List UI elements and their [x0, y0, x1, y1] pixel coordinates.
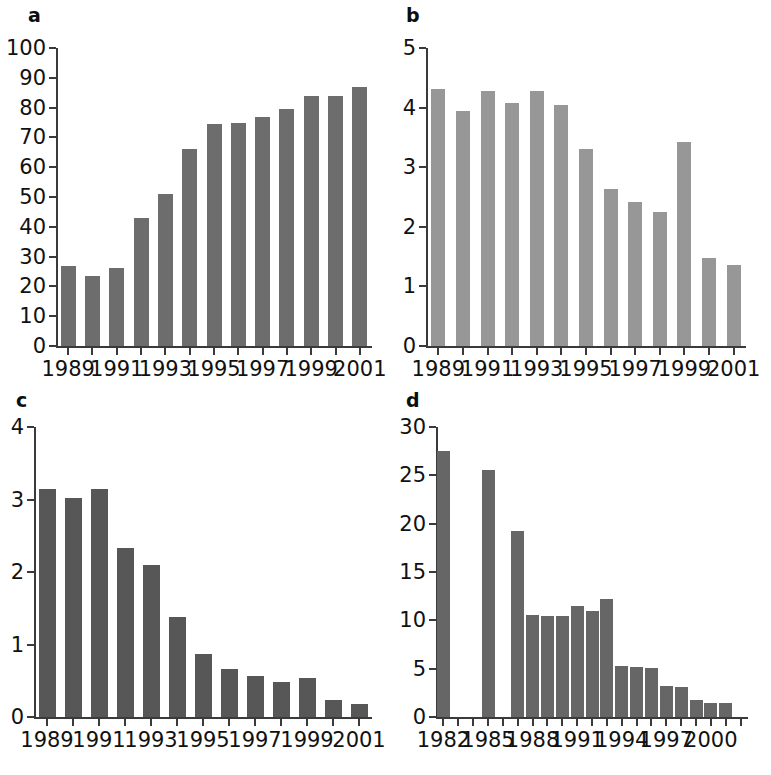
- panel-b-bar: [505, 103, 519, 346]
- panel-a-bar: [85, 276, 100, 346]
- panel-c-y-tick: [27, 499, 34, 501]
- panel-d-bar: [600, 599, 613, 717]
- panel-b-y-tick-label: 3: [403, 157, 416, 178]
- panel-c-y-tick: [27, 644, 34, 646]
- panel-a-y-tick: [49, 315, 56, 317]
- panel-b-y-tick: [419, 166, 426, 168]
- panel-d-y-tick-label: 5: [413, 658, 426, 679]
- panel-b-y-tick-label: 2: [403, 216, 416, 237]
- panel-a-bar: [109, 268, 124, 346]
- panel-c-x-tick-label: 1993: [124, 730, 177, 751]
- panel-c-bar: [169, 617, 186, 717]
- panel-c-x-tick: [358, 719, 360, 726]
- panel-b-bar: [481, 91, 495, 346]
- panel-c-y-tick: [27, 426, 34, 428]
- panel-b-bar: [653, 212, 667, 346]
- panel-d-x-tick: [472, 719, 474, 726]
- panel-d-x-tick: [517, 719, 519, 726]
- panel-d-bar: [482, 470, 495, 717]
- panel-c-letter: c: [16, 391, 27, 410]
- panel-c-y-tick: [27, 716, 34, 718]
- panel-d-x-tick: [561, 719, 563, 726]
- panel-b-x-tick: [437, 348, 439, 355]
- panel-d-x-tick: [740, 719, 742, 726]
- panel-b-bar: [456, 111, 470, 346]
- panel-a-bar: [231, 123, 246, 346]
- panel-a-y-tick: [49, 285, 56, 287]
- panel-c-bar: [91, 489, 108, 717]
- panel-d-y-tick: [429, 668, 436, 670]
- panel-a-x-tick-label: 1991: [90, 359, 143, 380]
- panel-d-x-tick: [725, 719, 727, 726]
- panel-b-y-tick-label: 0: [403, 336, 416, 357]
- panel-a-x-tick: [91, 348, 93, 355]
- panel-b-y-tick: [419, 285, 426, 287]
- panel-d-y-tick-label: 20: [399, 513, 426, 534]
- panel-a-x-tick: [286, 348, 288, 355]
- panel-a-x-tick-label: 1997: [236, 359, 289, 380]
- panel-c-bar: [65, 498, 82, 717]
- panel-b: b 0123451989199119931995199719992001: [390, 0, 771, 390]
- panel-c-x-tick-label: 1989: [20, 730, 73, 751]
- panel-d-bar: [675, 687, 688, 717]
- panel-b-x-tick-label: 1993: [510, 359, 563, 380]
- panel-a-y-tick: [49, 226, 56, 228]
- panel-d-bar: [615, 666, 628, 717]
- panel-a-y-tick-label: 0: [33, 336, 46, 357]
- panel-c-plot-area: 012341989199119931995199719992001: [34, 427, 372, 719]
- panel-a-y-tick: [49, 196, 56, 198]
- panel-c-x-tick: [124, 719, 126, 726]
- panel-a-x-tick-label: 1993: [139, 359, 192, 380]
- panel-d-bar: [511, 531, 524, 717]
- panel-b-x-tick: [487, 348, 489, 355]
- panel-d-y-tick-label: 30: [399, 417, 426, 438]
- panel-d-bar: [690, 700, 703, 717]
- panel-b-x-tick-label: 1995: [559, 359, 612, 380]
- panel-a-bar: [61, 266, 76, 346]
- panel-c-bar: [325, 700, 342, 717]
- panel-a-y-tick-label: 100: [6, 38, 46, 59]
- panel-b-bar: [677, 142, 691, 346]
- panel-a-y-axis: [56, 48, 58, 348]
- panel-a-bar: [279, 109, 294, 347]
- panel-a-y-tick-label: 70: [19, 127, 46, 148]
- panel-b-x-tick-label: 2001: [707, 359, 760, 380]
- panel-a-x-tick: [237, 348, 239, 355]
- panel-c-x-tick-label: 1995: [176, 730, 229, 751]
- panel-c-x-tick-label: 1997: [228, 730, 281, 751]
- panel-c-x-tick: [280, 719, 282, 726]
- panel-d-x-tick: [457, 719, 459, 726]
- panel-a-y-tick: [49, 345, 56, 347]
- panel-c-y-tick-label: 3: [11, 489, 24, 510]
- panel-a-bar: [134, 218, 149, 346]
- panel-a-bar: [207, 124, 222, 346]
- panel-b-x-tick: [610, 348, 612, 355]
- panel-c-bar: [247, 676, 264, 717]
- panel-c-bar: [221, 669, 238, 717]
- panel-d-bar: [526, 615, 539, 717]
- panel-c-y-tick-label: 4: [11, 417, 24, 438]
- panel-a-y-tick-label: 20: [19, 276, 46, 297]
- panel-d-x-tick: [636, 719, 638, 726]
- panel-b-y-tick-label: 4: [403, 97, 416, 118]
- panel-a-y-tick: [49, 166, 56, 168]
- panel-a-bar: [352, 87, 367, 346]
- panel-d-y-tick-label: 0: [413, 707, 426, 728]
- panel-a-bar: [304, 96, 319, 346]
- panel-d-y-tick: [429, 523, 436, 525]
- panel-a-letter: a: [28, 6, 41, 25]
- panel-b-plot-area: 0123451989199119931995199719992001: [426, 48, 746, 348]
- panel-b-x-tick: [462, 348, 464, 355]
- panel-b-bar: [727, 265, 741, 346]
- panel-a-bar: [182, 149, 197, 346]
- panel-a-y-tick: [49, 77, 56, 79]
- panel-a-y-tick-label: 90: [19, 67, 46, 88]
- panel-d-x-tick: [442, 719, 444, 726]
- panel-d-y-tick: [429, 474, 436, 476]
- panel-d-x-tick: [576, 719, 578, 726]
- panel-b-y-axis: [426, 48, 428, 348]
- panel-b-x-tick: [683, 348, 685, 355]
- panel-c-y-tick-label: 1: [11, 634, 24, 655]
- panel-a-x-tick: [335, 348, 337, 355]
- panel-b-y-tick-label: 5: [403, 38, 416, 59]
